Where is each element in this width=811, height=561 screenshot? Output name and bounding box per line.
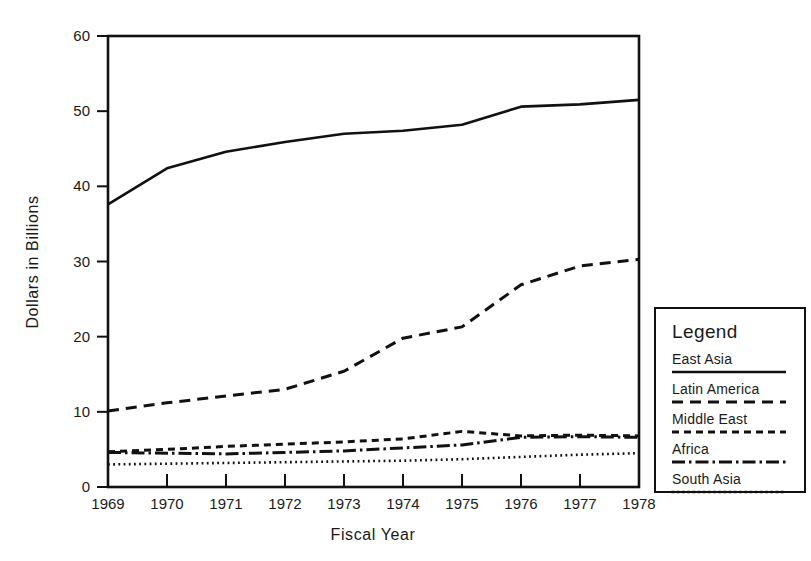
x-tick-label: 1972 (268, 495, 301, 512)
x-tick-label: 1969 (91, 495, 124, 512)
x-axis-title: Fiscal Year (331, 526, 416, 543)
y-tick-label: 60 (73, 27, 90, 44)
x-tick-label: 1973 (327, 495, 360, 512)
legend-item-label: Latin America (672, 381, 759, 397)
y-tick-label: 40 (73, 177, 90, 194)
legend-item-label: East Asia (672, 351, 732, 367)
x-tick-label: 1971 (209, 495, 242, 512)
y-tick-label: 10 (73, 403, 90, 420)
line-chart: 0102030405060 19691970197119721973197419… (0, 0, 811, 561)
legend: Legend East AsiaLatin AmericaMiddle East… (655, 308, 805, 492)
x-tick-label: 1976 (504, 495, 537, 512)
y-axis-title: Dollars in Billions (24, 195, 41, 328)
y-tick-label: 30 (73, 253, 90, 270)
x-tick-label: 1970 (150, 495, 183, 512)
legend-item-label: Africa (672, 441, 709, 457)
x-tick-label: 1975 (445, 495, 478, 512)
x-tick-label: 1978 (622, 495, 655, 512)
chart-figure: 0102030405060 19691970197119721973197419… (0, 0, 811, 561)
legend-item-label: Middle East (672, 411, 747, 427)
y-tick-label: 20 (73, 328, 90, 345)
legend-item-label: South Asia (672, 471, 741, 487)
y-tick-label: 0 (82, 478, 90, 495)
y-tick-label: 50 (73, 102, 90, 119)
x-tick-label: 1974 (386, 495, 419, 512)
x-tick-label: 1977 (563, 495, 596, 512)
legend-title: Legend (672, 321, 738, 342)
